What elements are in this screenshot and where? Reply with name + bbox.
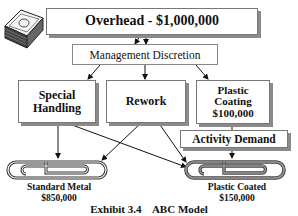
paperclip-icon [6,159,108,181]
activity-line1: Rework [126,95,167,108]
paperclip-icon [184,159,286,181]
activity-plastic-coating: Plastic Coating $100,000 [196,80,270,124]
overhead-label: Overhead - $1,000,000 [85,14,219,29]
caption-text: Exhibit 3.4 ABC Model [90,203,208,215]
management-discretion-box: Management Discretion [72,44,218,65]
management-discretion-label: Management Discretion [90,49,201,61]
product-name: Standard Metal [14,182,104,193]
product-standard-metal: Standard Metal $850,000 [14,182,104,204]
activity-special-handling: Special Handling [18,80,96,123]
abc-model-diagram: Overhead - $1,000,000 Management Discret… [0,0,298,216]
activity-line1: Special [39,89,76,102]
product-name: Plastic Coated [192,182,282,193]
money-stack-icon [3,4,45,50]
overhead-box: Overhead - $1,000,000 [46,8,258,35]
activity-line3: $100,000 [212,108,253,120]
exhibit-caption: Exhibit 3.4 ABC Model [0,203,298,215]
activity-line2: Handling [33,102,81,115]
activity-demand-label: Activity Demand [192,133,275,145]
activity-rework: Rework [106,80,186,123]
activity-demand-box: Activity Demand [180,130,288,148]
product-plastic-coated: Plastic Coated $150,000 [192,182,282,204]
